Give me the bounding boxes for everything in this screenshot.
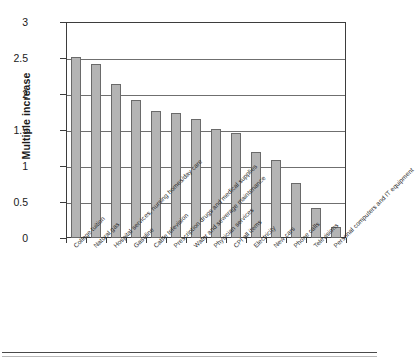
bar-slot — [171, 22, 181, 238]
bar-slot — [191, 22, 201, 238]
bar-slot — [91, 22, 101, 238]
bar — [151, 111, 161, 238]
y-axis-tick-label: 2.5 — [0, 52, 28, 64]
y-axis-tick-label: 3 — [0, 16, 28, 28]
page-bottom-rule — [2, 352, 377, 353]
bar-slot — [271, 22, 281, 238]
page-bottom-rule-secondary — [2, 356, 377, 357]
bar-series — [66, 22, 346, 238]
bar-slot — [131, 22, 141, 238]
bar-slot — [251, 22, 261, 238]
y-axis-tick-label: 0.5 — [0, 196, 28, 208]
bar — [91, 64, 101, 238]
y-axis-tick-label: 1 — [0, 160, 28, 172]
bar — [71, 57, 81, 238]
y-axis-tick-label: 2 — [0, 88, 28, 100]
x-axis-tick-mark — [66, 238, 67, 243]
bar-slot — [331, 22, 341, 238]
bar-slot — [71, 22, 81, 238]
bar-slot — [291, 22, 301, 238]
bar-slot — [111, 22, 121, 238]
bar-slot — [311, 22, 321, 238]
y-axis-tick-label: 0 — [0, 232, 28, 244]
bar — [111, 84, 121, 238]
y-axis-tick-label: 1.5 — [0, 124, 28, 136]
